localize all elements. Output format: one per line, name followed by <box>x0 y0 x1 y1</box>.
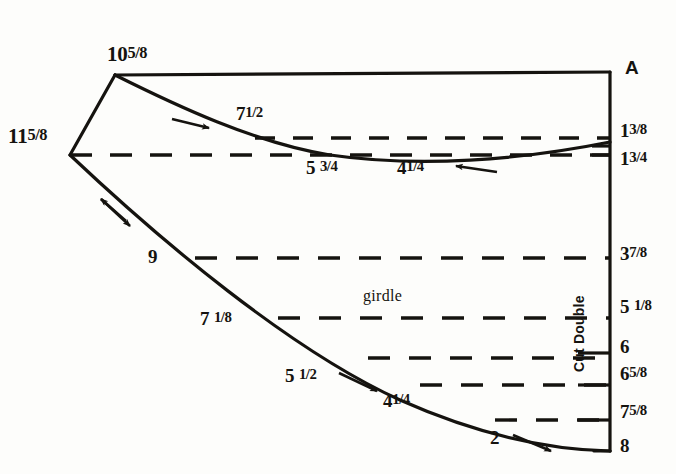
label-left-vertex: 115/8 <box>8 126 47 147</box>
upper-curve <box>115 75 610 161</box>
label-top-vertex: 105/8 <box>107 44 147 65</box>
upper-left-arrow-icon <box>456 166 497 172</box>
bottom-right-arrow-icon <box>513 435 551 451</box>
label-upper-curve-1: 71/2 <box>236 104 263 123</box>
scale-label: 5 1/8 <box>620 297 651 316</box>
label-girdle: girdle <box>363 288 402 304</box>
label-upper-curve-3: 41/4 <box>397 158 424 177</box>
draft-drawing <box>0 0 676 474</box>
dashed-construction-lines <box>70 138 610 420</box>
label-cut-double: Cut Double <box>572 295 586 372</box>
label-lower-curve-1: 9 <box>148 247 157 266</box>
lower-right-arrow-icon <box>339 373 377 391</box>
label-point-a: A <box>625 58 639 77</box>
scale-label: 13/4 <box>620 149 647 168</box>
label-lower-curve-2: 7 1/8 <box>200 309 231 328</box>
label-lower-curve-5: 2 <box>490 428 499 447</box>
right-edge-ticks <box>578 146 610 420</box>
scale-label: 75/8 <box>620 402 647 421</box>
scale-label: 6 <box>620 337 629 356</box>
scale-label: 37/8 <box>620 244 647 263</box>
label-lower-curve-3: 5 1/2 <box>285 366 316 385</box>
pattern-draft-diagram: 105/8 115/8 A 71/2 5 3/4 41/4 9 7 1/8 5 … <box>0 0 676 474</box>
upper-right-arrow-icon <box>172 119 209 128</box>
scale-label: 13/8 <box>620 121 647 140</box>
left-double-arrow-icon-2 <box>101 199 130 226</box>
label-lower-curve-4: 41/4 <box>383 391 410 410</box>
scale-label: 65/8 <box>620 364 647 383</box>
label-upper-curve-2: 5 3/4 <box>306 158 337 177</box>
lower-curve <box>70 155 610 451</box>
top-edge-line <box>115 72 610 75</box>
left-upper-edge <box>70 75 115 155</box>
scale-label: 8 <box>620 436 629 455</box>
